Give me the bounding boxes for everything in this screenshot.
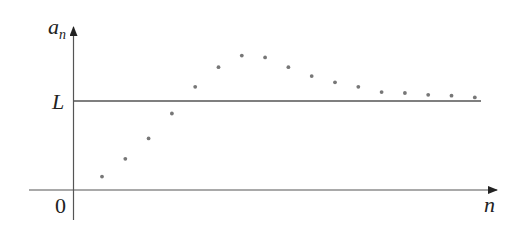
data-point (356, 85, 360, 89)
data-point (100, 175, 104, 179)
x-axis-label: n (484, 192, 495, 217)
data-point (380, 90, 384, 94)
data-points (100, 54, 477, 179)
limit-label: L (51, 89, 64, 114)
y-axis-label: an (48, 14, 66, 42)
data-point (147, 137, 151, 141)
data-point (473, 96, 477, 100)
data-point (426, 93, 430, 97)
data-point (263, 56, 267, 60)
sequence-chart: an L 0 n (0, 0, 524, 237)
data-point (193, 85, 197, 89)
data-point (170, 112, 174, 116)
data-point (240, 54, 244, 58)
data-point (403, 91, 407, 95)
data-point (333, 80, 337, 84)
data-point (287, 65, 291, 69)
data-point (450, 94, 454, 98)
data-point (217, 65, 221, 69)
data-point (123, 157, 127, 161)
origin-label: 0 (55, 193, 66, 218)
data-point (310, 74, 314, 78)
